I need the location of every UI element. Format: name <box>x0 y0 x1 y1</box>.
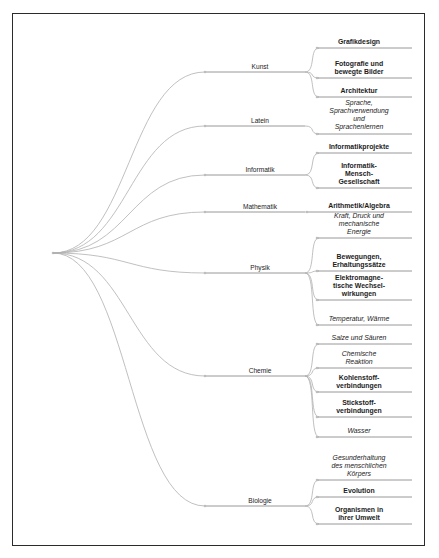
mindmap-canvas: KunstGrafikdesignFotografie und bewegte … <box>0 0 439 558</box>
leaf-node[interactable]: Bewegungen, Erhaltungssätze <box>299 253 419 270</box>
leaf-node[interactable]: Elektromagne- tische Wechsel- wirkungen <box>299 274 419 299</box>
leaf-node[interactable]: Fotografie und bewegte Bilder <box>299 60 419 77</box>
leaf-node[interactable]: Salze und Säuren <box>299 334 419 343</box>
leaf-node[interactable]: Sprache, Sprachverwendung und Sprachenle… <box>299 99 419 133</box>
leaf-node[interactable]: Wasser <box>299 427 419 436</box>
leaf-node[interactable]: Evolution <box>299 487 419 496</box>
leaf-node[interactable]: Kohlenstoff- verbindungen <box>299 374 419 391</box>
leaf-node[interactable]: Architektur <box>299 87 419 96</box>
leaf-node[interactable]: Informatik- Mensch- Gesellschaft <box>299 162 419 187</box>
leaf-node[interactable]: Informatikprojekte <box>299 143 419 152</box>
leaf-node[interactable]: Gesunderhaltung des menschlichen Körpers <box>299 454 419 479</box>
leaf-node[interactable]: Chemische Reaktion <box>299 350 419 367</box>
leaf-node[interactable]: Temperatur, Wärme <box>299 315 419 324</box>
leaf-node[interactable]: Arithmetik/Algebra <box>299 202 419 211</box>
leaf-node[interactable]: Kraft, Druck und mechanische Energie <box>299 212 419 237</box>
leaf-node[interactable]: Stickstoff- verbindungen <box>299 399 419 416</box>
branch-node-biologie[interactable]: Biologie <box>200 497 320 505</box>
leaf-node[interactable]: Organismen in ihrer Umwelt <box>299 506 419 523</box>
leaf-node[interactable]: Grafikdesign <box>299 38 419 47</box>
